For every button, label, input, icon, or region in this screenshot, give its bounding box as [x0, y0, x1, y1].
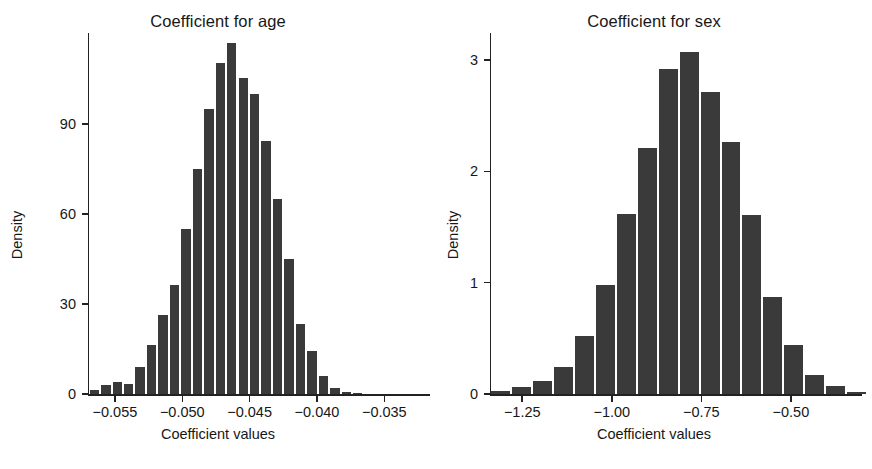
x-axis-tick-label: −1.00 [593, 404, 630, 420]
histogram-bar [825, 386, 846, 394]
x-axis-tick [611, 396, 613, 402]
histogram-bar [238, 78, 249, 395]
x-axis-tick [790, 396, 792, 402]
histogram-bar [721, 142, 742, 394]
y-axis-tick-label: 60 [36, 206, 76, 222]
histogram-bar [511, 387, 532, 394]
histogram-bar [146, 345, 157, 395]
x-axis-tick-label: −0.035 [362, 404, 407, 420]
histogram-bar [700, 92, 721, 394]
figure-two-histograms: Coefficient for age Density 0306090−0.05… [0, 0, 872, 469]
panel-title-sex: Coefficient for sex [436, 12, 872, 31]
histogram-bar [134, 367, 145, 394]
y-axis-tick [82, 213, 88, 215]
y-axis-tick [484, 282, 490, 284]
x-axis-tick-label: −0.040 [295, 404, 340, 420]
x-axis-tick [701, 396, 703, 402]
histogram-bar [260, 141, 271, 395]
y-axis-line [88, 33, 90, 394]
histogram-bar [741, 215, 762, 394]
x-axis-tick [521, 396, 523, 402]
y-axis-label-age: Density [6, 0, 28, 469]
x-axis-tick [249, 396, 251, 402]
histogram-bar [123, 384, 134, 395]
panel-coefficient-for-age: Coefficient for age Density 0306090−0.05… [0, 0, 436, 469]
y-axis-tick-label: 30 [36, 296, 76, 312]
y-axis-tick [82, 303, 88, 305]
y-axis-line [490, 33, 492, 394]
x-axis-label-age: Coefficient values [0, 426, 436, 442]
y-axis-tick-label: 90 [36, 116, 76, 132]
y-axis-tick [82, 393, 88, 395]
x-axis-tick [114, 396, 116, 402]
x-axis-tick-label: −1.25 [504, 404, 541, 420]
histogram-bar [283, 259, 294, 394]
y-axis-tick-label: 0 [438, 386, 478, 402]
y-axis-tick-label: 1 [438, 275, 478, 291]
x-axis-tick-label: −0.045 [227, 404, 272, 420]
x-axis-tick [384, 396, 386, 402]
x-axis-tick [182, 396, 184, 402]
histogram-bar [192, 169, 203, 394]
y-axis-tick-label: 2 [438, 163, 478, 179]
histogram-bar [658, 69, 679, 394]
histogram-bar [157, 315, 168, 395]
histogram-bar [272, 199, 283, 394]
plot-area-age: 0306090−0.055−0.050−0.045−0.040−0.035 [88, 40, 418, 394]
y-axis-tick-label: 0 [36, 386, 76, 402]
histogram-bar [553, 367, 574, 394]
histogram-bar [574, 336, 595, 394]
histogram-bar [616, 214, 637, 394]
histogram-bar [100, 385, 111, 394]
x-axis-tick-label: −0.055 [93, 404, 138, 420]
histogram-bar [215, 63, 226, 395]
x-axis-tick-label: −0.50 [773, 404, 810, 420]
y-axis-tick [484, 171, 490, 173]
x-axis-label-sex: Coefficient values [436, 426, 872, 442]
y-axis-tick-label: 3 [438, 52, 478, 68]
panel-coefficient-for-sex: Coefficient for sex Density 0123−1.25−1.… [436, 0, 872, 469]
histogram-bar [226, 43, 237, 394]
histogram-bar [180, 229, 191, 394]
histogram-bar [249, 94, 260, 394]
histogram-bar [203, 109, 214, 394]
histogram-bar [762, 297, 783, 394]
x-axis-tick [316, 396, 318, 402]
y-axis-tick [82, 123, 88, 125]
histogram-bar [637, 148, 658, 394]
histogram-bar [804, 375, 825, 394]
histogram-bar [169, 285, 180, 395]
histogram-bar [532, 381, 553, 394]
histogram-bar [318, 376, 329, 394]
histogram-bar [112, 382, 123, 394]
histogram-bar [295, 324, 306, 395]
histogram-bar [595, 285, 616, 394]
x-axis-line [490, 394, 862, 396]
plot-area-sex: 0123−1.25−1.00−0.75−0.50 [490, 40, 850, 394]
histogram-bar [306, 351, 317, 395]
histogram-bar [783, 345, 804, 394]
x-axis-tick-label: −0.75 [683, 404, 720, 420]
x-axis-line [88, 394, 430, 396]
histogram-bar [679, 52, 700, 394]
y-axis-tick [484, 393, 490, 395]
x-axis-tick-label: −0.050 [160, 404, 205, 420]
panel-title-age: Coefficient for age [0, 12, 436, 31]
y-axis-tick [484, 59, 490, 61]
